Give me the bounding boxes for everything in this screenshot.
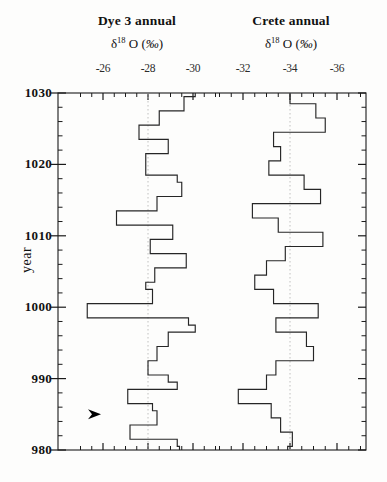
figure-root: Dye 3 annual δ18 O (‰) Crete annual δ18 … (0, 0, 387, 482)
crete-trace (238, 93, 325, 450)
reference-lines-layer (148, 93, 290, 450)
year-marker-arrow-icon (88, 409, 101, 419)
data-traces-layer (87, 93, 325, 450)
axes-layer (51, 93, 366, 450)
annotation-marker-layer (88, 409, 101, 419)
dye3-trace (87, 93, 195, 450)
plot-frame (58, 93, 366, 450)
plot-canvas (0, 0, 387, 482)
